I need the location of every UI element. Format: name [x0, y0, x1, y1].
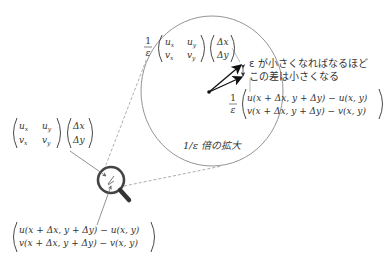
- svg-text:vx: vx: [19, 135, 28, 146]
- svg-text:ε: ε: [231, 105, 236, 115]
- original-difference-term: u(x + Δx, y + Δy) − u(x, y) v(x + Δx, y …: [14, 222, 155, 252]
- svg-text:ε: ε: [146, 48, 151, 58]
- svg-text:Δx: Δx: [72, 121, 85, 131]
- diagram-canvas: 1 ε ux uy vx vy Δx Δy ε が小さくなればなるほど この差は…: [0, 0, 388, 264]
- svg-text:v(x + Δx, y + Δy) − v(x, y): v(x + Δx, y + Δy) − v(x, y): [19, 238, 138, 248]
- svg-text:1: 1: [145, 36, 151, 46]
- difference-vector-arrow: [209, 77, 242, 92]
- magnifier-icon: [98, 167, 129, 200]
- svg-text:vy: vy: [187, 50, 196, 62]
- svg-text:u(x + Δx, y + Δy) − u(x, y): u(x + Δx, y + Δy) − u(x, y): [19, 225, 140, 235]
- annotation-line-2: この差は小さくなる: [249, 70, 339, 82]
- svg-text:Δy: Δy: [72, 135, 85, 145]
- svg-text:u(x + Δx, y + Δy) − u(x, y): u(x + Δx, y + Δy) − u(x, y): [247, 93, 368, 103]
- svg-text:Δx: Δx: [216, 37, 229, 47]
- original-linear-term: ux uy vx vy Δx Δy: [14, 118, 93, 148]
- svg-text:vy: vy: [42, 135, 51, 147]
- scale-label: 1/ε 倍の拡大: [183, 140, 242, 151]
- svg-text:v(x + Δx, y + Δy) − v(x, y): v(x + Δx, y + Δy) − v(x, y): [247, 106, 366, 116]
- annotation-line-1: ε が小さくなればなるほど: [249, 57, 368, 69]
- linear-vector-arrow: [209, 65, 241, 92]
- svg-text:uy: uy: [42, 121, 52, 133]
- svg-text:ux: ux: [165, 37, 175, 48]
- projection-line-upper: [104, 58, 147, 170]
- svg-text:1: 1: [230, 93, 236, 103]
- svg-text:vx: vx: [165, 50, 174, 61]
- svg-text:uy: uy: [187, 37, 197, 49]
- svg-text:Δy: Δy: [216, 50, 229, 60]
- projection-line-lower: [124, 166, 222, 186]
- magnified-linear-term: 1 ε ux uy vx vy Δx Δy: [144, 35, 235, 62]
- svg-text:ux: ux: [19, 121, 29, 132]
- pointer-linear: [70, 151, 106, 176]
- magnified-difference-term: 1 ε u(x + Δx, y + Δy) − u(x, y) v(x + Δx…: [229, 89, 383, 119]
